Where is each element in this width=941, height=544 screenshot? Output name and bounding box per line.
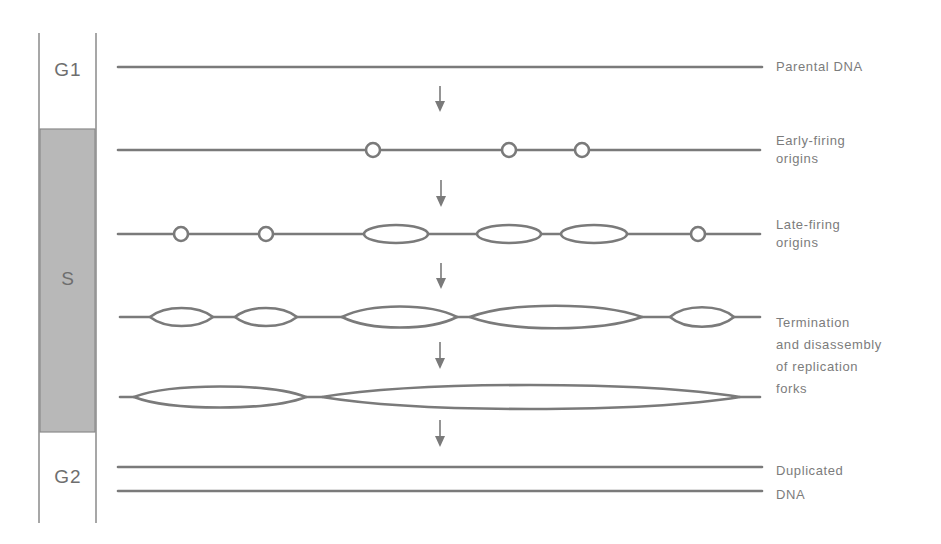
origin-circle xyxy=(174,227,188,241)
replication-bubble xyxy=(342,307,457,328)
down-arrow-icon xyxy=(435,420,445,447)
replication-bubble xyxy=(477,225,541,243)
stage-label-termination: Termination and disassembly of replicati… xyxy=(776,312,882,400)
down-arrow-icon xyxy=(436,263,446,289)
termination-row-1 xyxy=(120,306,760,329)
stage-label-early-firing: Early-firing origins xyxy=(776,132,845,168)
down-arrow-icon xyxy=(435,86,445,112)
stage-label-parental: Parental DNA xyxy=(776,58,863,76)
phase-label-g1: G1 xyxy=(40,59,96,81)
origin-circle xyxy=(366,143,380,157)
replication-bubble xyxy=(670,307,734,327)
termination-row-2 xyxy=(120,385,760,409)
late-firing-row xyxy=(118,225,760,243)
replication-bubble xyxy=(561,225,627,243)
down-arrow-icon xyxy=(435,342,445,369)
origin-circle xyxy=(575,143,589,157)
origin-circle xyxy=(691,227,705,241)
replication-bubble xyxy=(134,387,306,408)
replication-bubble xyxy=(235,308,297,326)
replication-bubble xyxy=(364,225,428,243)
replication-bubble xyxy=(150,308,213,326)
replication-bubble xyxy=(470,306,642,329)
stage-label-late-firing: Late-firing origins xyxy=(776,216,840,252)
origin-circle xyxy=(502,143,516,157)
down-arrow-icon xyxy=(436,180,446,207)
dna-replication-diagram: G1 S G2 Parental DNA Early-firing origin… xyxy=(0,0,941,544)
phase-label-s: S xyxy=(40,268,96,290)
phase-label-g2: G2 xyxy=(40,466,96,488)
early-firing-row xyxy=(118,143,760,157)
origin-circle xyxy=(259,227,273,241)
stage-label-duplicated: Duplicated DNA xyxy=(776,459,843,507)
replication-bubble xyxy=(322,385,740,409)
